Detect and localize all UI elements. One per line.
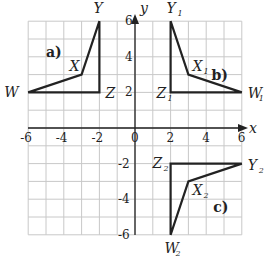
x-tick-label: 4	[202, 131, 210, 145]
vertex-subscript: 1	[168, 94, 173, 103]
vertex-label-z: Z	[152, 155, 163, 171]
y-tick-label: 2	[125, 85, 133, 99]
x-tick-label: -2	[91, 131, 103, 145]
x-tick-label: -4	[56, 131, 68, 145]
x-tick-label: 0	[131, 131, 139, 145]
coordinate-grid-diagram: x y -6-4-20246642-2-4-6 WXYZa)W1X1Y1Z1b)…	[0, 0, 270, 266]
vertex-label-w: W	[4, 84, 20, 100]
x-tick-label: 2	[167, 131, 175, 145]
figure-c: W2X2Y2Z2c)	[152, 155, 264, 258]
vertex-subscript: 2	[163, 164, 169, 173]
vertex-subscript: 1	[178, 9, 183, 18]
vertex-label-x: X	[69, 58, 81, 74]
panel-label: c)	[213, 199, 228, 215]
x-axis-label: x	[249, 120, 257, 136]
y-tick-label: 6	[125, 14, 133, 28]
vertex-label-x: X	[191, 182, 203, 198]
figure-b: W1X1Y1Z1b)	[156, 0, 264, 103]
figure-a: WXYZa)	[4, 0, 115, 101]
y-axis-label: y	[139, 0, 149, 16]
panel-label: b)	[212, 67, 228, 83]
vertex-subscript: 1	[203, 67, 208, 76]
y-tick-label: 4	[125, 50, 133, 64]
y-tick-label: -2	[118, 157, 130, 171]
vertex-subscript: 2	[175, 249, 181, 258]
vertex-subscript: 2	[258, 166, 264, 175]
panel-label: a)	[46, 44, 62, 60]
vertex-subscript: 2	[202, 191, 208, 200]
y-tick-label: -4	[118, 192, 130, 206]
y-tick-label: -6	[118, 228, 130, 242]
vertex-label-z: Z	[156, 85, 167, 101]
x-tick-label: 6	[238, 131, 246, 145]
vertex-label-y: Y	[93, 0, 104, 16]
x-tick-label: -6	[20, 131, 32, 145]
vertex-label-x: X	[191, 58, 203, 74]
vertex-subscript: 1	[259, 94, 264, 103]
vertex-label-y: Y	[248, 157, 259, 173]
vertex-label-y: Y	[167, 0, 178, 16]
vertex-label-z: Z	[104, 85, 115, 101]
